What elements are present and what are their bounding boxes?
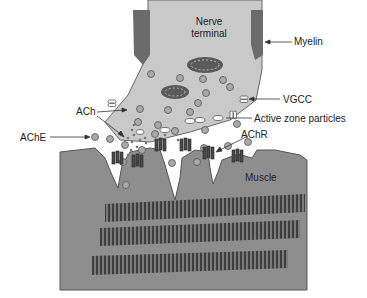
label-ache: AChE (20, 132, 46, 143)
mitochondrion (187, 57, 223, 73)
label-muscle: Muscle (245, 172, 277, 183)
label-vgcc: VGCC (283, 94, 312, 105)
label-ach: ACh (76, 106, 95, 117)
label-nerve-terminal: Nerve terminal (174, 16, 244, 40)
label-active-zone-particles: Active zone particles (254, 113, 346, 124)
myelin-left (133, 10, 150, 65)
label-myelin: Myelin (294, 36, 323, 47)
label-achr: AChR (241, 129, 268, 140)
